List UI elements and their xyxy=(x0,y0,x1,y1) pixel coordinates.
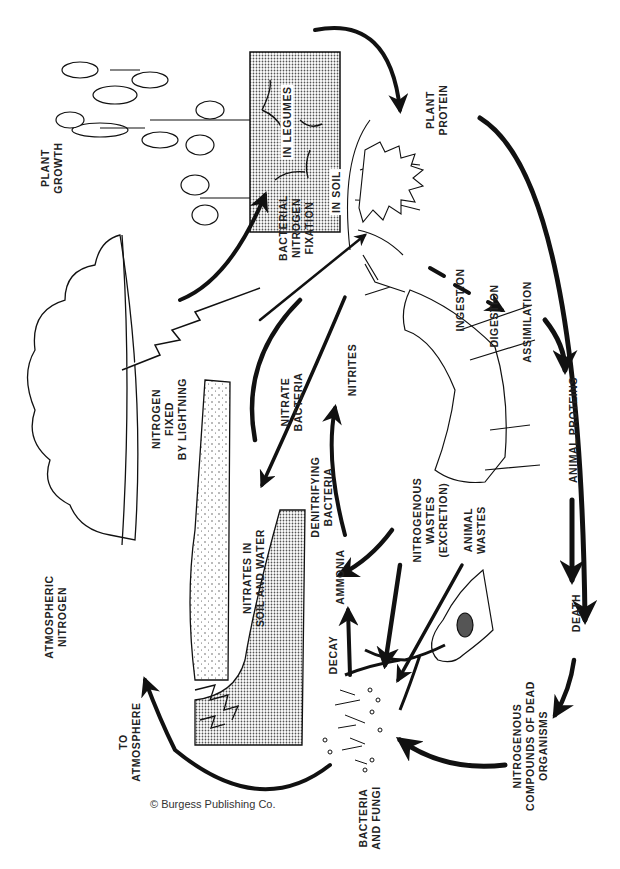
label-nitrites: NITRITES xyxy=(346,344,359,397)
label-decay: DECAY xyxy=(327,636,340,675)
label-nitrogen-fixed-by-lightning: NITROGEN FIXED BY LIGHTNING xyxy=(150,378,189,460)
label-line: SOIL AND WATER xyxy=(254,529,267,627)
label-denitrifying-bacteria: DENITRIFYING BACTERIA xyxy=(309,456,335,537)
label-line: GROWTH xyxy=(52,142,65,193)
label-line: BACTERIA xyxy=(292,372,305,431)
label-line: DIGESTION xyxy=(488,284,501,347)
label-line: ATMOSPHERIC xyxy=(43,575,56,658)
bacteria-fungi-illustration xyxy=(323,688,382,772)
label-nitrogenous-wastes: NITROGENOUS WASTES (EXCRETION) xyxy=(411,478,450,563)
label-line: NITROGENOUS xyxy=(411,478,424,563)
label-in-soil: IN SOIL xyxy=(330,169,343,215)
label-line: ATMOSPHERE xyxy=(130,702,143,781)
label-line: NITROGEN xyxy=(290,195,303,261)
label-line: BACTERIAL xyxy=(277,195,290,261)
label-in-legumes: IN LEGUMES xyxy=(281,84,294,159)
label-line: ANIMAL PROTEINS xyxy=(567,377,580,483)
label-line: NITROGENOUS xyxy=(511,681,524,811)
label-line: NITROGEN xyxy=(56,575,69,658)
label-line: FIXED xyxy=(163,378,176,460)
label-line: ASSIMILATION xyxy=(521,281,534,363)
label-animal-proteins: ANIMAL PROTEINS xyxy=(567,377,580,483)
label-line: AMMONIA xyxy=(334,549,347,605)
label-line: NITROGEN xyxy=(150,378,163,460)
label-line: FIXATION xyxy=(303,195,316,261)
label-line: ORGANISMS xyxy=(537,681,550,811)
cloud-illustration xyxy=(28,235,138,545)
label-ammonia: AMMONIA xyxy=(334,549,347,605)
label-line: PLANT xyxy=(424,85,437,136)
label-line: IN LEGUMES xyxy=(281,86,294,157)
label-bacteria-and-fungi: BACTERIA AND FUNGI xyxy=(357,786,383,850)
label-to-atmosphere: TO ATMOSPHERE xyxy=(117,702,143,781)
label-line: COMPOUNDS OF DEAD xyxy=(524,681,537,811)
elk-illustration xyxy=(363,255,540,483)
label-line: TO xyxy=(117,702,130,781)
shrub-illustration xyxy=(348,120,424,255)
label-line: DECAY xyxy=(327,636,340,675)
label-line: NITRATE xyxy=(279,372,292,431)
label-line: BACTERIA xyxy=(357,786,370,850)
label-ingestion: INGESTION xyxy=(454,268,467,331)
label-nitrates-in-soil-and-water: NITRATES IN SOIL AND WATER xyxy=(241,529,267,627)
label-line: WASTES xyxy=(475,506,488,554)
label-nitrate-bacteria: NITRATE BACTERIA xyxy=(279,372,305,431)
label-plant-protein: PLANT PROTEIN xyxy=(424,85,450,136)
figure-caption-cutoff xyxy=(160,862,480,869)
label-line: PROTEIN xyxy=(437,85,450,136)
label-line: NITRATES IN xyxy=(241,529,254,627)
pea-plant-illustration xyxy=(56,62,250,225)
lightning-bolt-icon xyxy=(122,288,260,370)
label-plant-growth: PLANT GROWTH xyxy=(39,142,65,193)
label-line: DENITRIFYING xyxy=(309,456,322,537)
label-line: PLANT xyxy=(39,142,52,193)
label-line: BY LIGHTNING xyxy=(176,378,189,460)
label-line: AND FUNGI xyxy=(370,786,383,850)
label-atmospheric-nitrogen: ATMOSPHERIC NITROGEN xyxy=(43,575,69,658)
label-digestion: DIGESTION xyxy=(488,284,501,347)
label-line: NITRITES xyxy=(346,344,359,397)
label-line: INGESTION xyxy=(454,268,467,331)
label-nitrogenous-compounds-of-dead-organisms: NITROGENOUS COMPOUNDS OF DEAD ORGANISMS xyxy=(511,681,550,811)
label-line: ANIMAL xyxy=(462,506,475,554)
label-line: IN SOIL xyxy=(330,171,343,213)
label-line: (EXCRETION) xyxy=(437,478,450,563)
label-animal-wastes: ANIMAL WASTES xyxy=(462,506,488,554)
label-line: BACTERIA xyxy=(322,456,335,537)
label-line: WASTES xyxy=(424,478,437,563)
publisher-credit: © Burgess Publishing Co. xyxy=(150,798,276,810)
label-assimilation: ASSIMILATION xyxy=(521,281,534,363)
label-bacterial-nitrogen-fixation: BACTERIAL NITROGEN FIXATION xyxy=(277,195,316,261)
label-line: DEATH xyxy=(570,594,583,632)
label-death: DEATH xyxy=(570,594,583,632)
